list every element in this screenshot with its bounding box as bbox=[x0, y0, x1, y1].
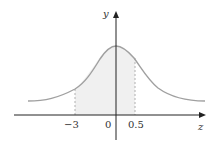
tick-label-neg3: −3 bbox=[64, 119, 79, 130]
y-axis-label: y bbox=[102, 8, 109, 19]
tick-label-0: 0 bbox=[105, 119, 111, 130]
x-axis-arrow-icon bbox=[199, 112, 206, 118]
shaded-region bbox=[75, 46, 135, 115]
tick-label-0-5: 0.5 bbox=[128, 119, 144, 130]
y-axis-arrow-icon bbox=[113, 11, 119, 18]
normal-curve-diagram: y z −3 0 0.5 bbox=[0, 0, 219, 147]
x-axis-label: z bbox=[197, 121, 204, 132]
